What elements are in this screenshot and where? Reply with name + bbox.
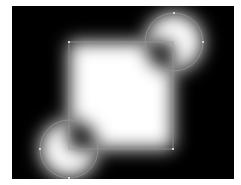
- handle-circle-left[interactable]: [39, 148, 41, 150]
- handle-circle-top[interactable]: [173, 12, 175, 14]
- handle-circle-bottom[interactable]: [68, 177, 70, 179]
- handle-circle-right[interactable]: [202, 41, 204, 43]
- mask-preview: [12, 6, 234, 179]
- canvas-frame: [12, 6, 234, 179]
- handle-top-left[interactable]: [68, 41, 70, 43]
- blurred-mask: [12, 6, 234, 179]
- handle-bottom-right[interactable]: [172, 148, 174, 150]
